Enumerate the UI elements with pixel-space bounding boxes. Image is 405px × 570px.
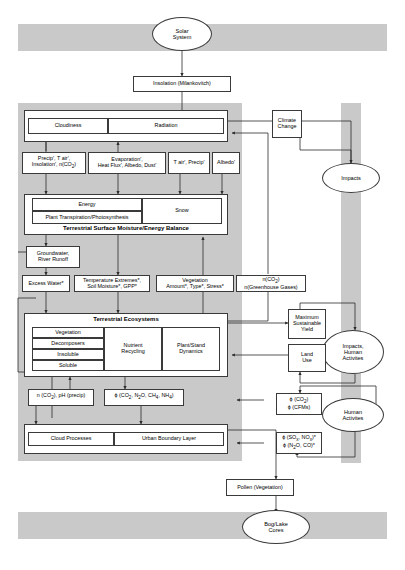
cloud-processes-label: Cloud Processes [51, 436, 92, 442]
greenhouse-label-2: n(Greenhouse Gases) [244, 285, 297, 291]
bog-lake-cores-node[interactable]: Bog/Lake Cores [242, 510, 310, 544]
precip-tair-insolation-node[interactable]: Precip′, T air′, Insolation′, n(CO2) [22, 152, 86, 174]
insoluble-node[interactable]: Insoluble [32, 349, 104, 360]
vegetation-attributes-node[interactable]: Vegetation Amount*, Type*, Stress* [156, 275, 234, 292]
climate-change-node[interactable]: Climate Change [272, 110, 302, 138]
excess-water-label: Excess Water* [28, 281, 63, 287]
tsmeb-title: Terrestrial Surface Moisture/Energy Bala… [24, 225, 228, 231]
flux-sox-label-2: ϕ (N2O, CO)* [282, 443, 316, 451]
albedo-node[interactable]: Albedo′ [212, 152, 240, 174]
plant-transpiration-label: Plant Transpiration/Photosynthesis [45, 215, 128, 221]
max-yield-label-3: Yield [293, 327, 321, 333]
pollen-vegetation-node[interactable]: Pollen (Vegetation) [226, 479, 294, 496]
energy-node[interactable]: Energy [32, 198, 142, 211]
groundwater-river-runoff-node[interactable]: Groundwater, River Runoff [26, 246, 80, 268]
human-activities-node[interactable]: Human Activites [322, 398, 384, 432]
solar-system-label-2: System [173, 34, 192, 40]
bog-lake-label-2: Cores [264, 527, 288, 533]
cloudiness-node[interactable]: Cloudiness [28, 118, 108, 134]
nutrient-recycling-label-2: Recycling [121, 349, 144, 355]
decomposers-node[interactable]: Decomposers [32, 338, 104, 349]
groundwater-label-2: River Runoff [37, 257, 69, 263]
temperature-extremes-node[interactable]: Temperature Extremes*, Soil Moisture*, G… [74, 275, 150, 292]
evaporation-label-2: Heat Flux′, Albedo, Dust′ [98, 163, 157, 169]
diagram-canvas: Solar System Insolation (Milankovitch) C… [0, 0, 405, 570]
cloudiness-label: Cloudiness [55, 123, 82, 129]
land-use-node[interactable]: Land Use [288, 344, 326, 372]
excess-water-node[interactable]: Excess Water* [22, 275, 70, 292]
impacts-label: Impacts [341, 175, 361, 181]
vegetation-label: Vegetation [55, 330, 80, 336]
vegetation-attr-label-2: Amount*, Type*, Stress* [166, 284, 224, 290]
flux-co2-n2o-label: ϕ (CO2, N2O, CH4, NH4) [114, 393, 173, 401]
pollen-label: Pollen (Vegetation) [237, 485, 283, 491]
radiation-label: Radiation [155, 123, 178, 129]
cloud-processes-node[interactable]: Cloud Processes [28, 432, 114, 446]
precip-label-2: Insolation′, n(CO2) [32, 162, 76, 170]
terrestrial-ecosystems-title: Terrestrial Ecosystems [24, 316, 228, 322]
tair-precip-label: T air′, Precip′ [174, 160, 205, 166]
radiation-node[interactable]: Radiation [108, 118, 224, 134]
impacts-node[interactable]: Impacts [322, 163, 380, 193]
plant-transpiration-node[interactable]: Plant Transpiration/Photosynthesis [32, 211, 142, 224]
evaporation-heatflux-node[interactable]: Evaporation′, Heat Flux′, Albedo, Dust′ [88, 152, 166, 174]
flux-sox-nox-node[interactable]: ϕ (SOx, NOx)* ϕ (N2O, CO)* [276, 432, 322, 454]
impacts-human-activities-node[interactable]: Impacts, Human Activites [322, 330, 384, 374]
vegetation-node[interactable]: Vegetation [32, 327, 104, 338]
human-activities-label-2: Activites [343, 415, 364, 421]
tair-precip-node[interactable]: T air′, Precip′ [168, 152, 210, 174]
soluble-label: Soluble [59, 363, 77, 369]
impacts-human-label-1: Impacts, [342, 343, 363, 349]
soluble-node[interactable]: Soluble [32, 360, 104, 371]
solar-system-node[interactable]: Solar System [152, 17, 212, 51]
snow-label: Snow [175, 208, 189, 214]
plant-stand-dynamics-node[interactable]: Plant/Stand Dynamics [162, 327, 220, 371]
insoluble-label: Insoluble [57, 352, 79, 358]
urban-boundary-layer-label: Urban Boundary Layer [142, 436, 196, 442]
flux-co2-n2o-ch4-nh4-node[interactable]: ϕ (CO2, N2O, CH4, NH4) [104, 389, 184, 406]
temp-extremes-label-2: Soil Moisture*, GPP* [83, 284, 141, 290]
insolation-label: Insolation (Milankovitch) [153, 81, 211, 87]
nutrient-recycling-node[interactable]: Nutrient Recycling [104, 327, 162, 371]
greenhouse-gases-node[interactable]: n(CO2) n(Greenhouse Gases) [236, 275, 306, 292]
nco2-ph-label: n (CO2), pH (precip) [37, 393, 85, 401]
land-use-label-2: Use [301, 358, 313, 364]
snow-node[interactable]: Snow [142, 198, 222, 224]
maximum-sustainable-yield-node[interactable]: Maximum Sustainable Yield [288, 309, 326, 339]
energy-label: Energy [78, 202, 95, 208]
plant-stand-label-2: Dynamics [177, 349, 205, 355]
urban-boundary-layer-node[interactable]: Urban Boundary Layer [114, 432, 224, 446]
insolation-node[interactable]: Insolation (Milankovitch) [133, 76, 231, 92]
decomposers-label: Decomposers [51, 341, 84, 347]
flux-co2-label-2: ϕ (CFMs) [288, 405, 310, 411]
impacts-human-label-3: Activites [342, 355, 363, 361]
flux-co2-cfms-node[interactable]: ϕ (CO2) ϕ (CFMs) [276, 393, 322, 415]
nco2-ph-precip-node[interactable]: n (CO2), pH (precip) [28, 389, 94, 406]
climate-change-label-2: Change [278, 124, 297, 130]
albedo-label: Albedo′ [217, 160, 235, 166]
